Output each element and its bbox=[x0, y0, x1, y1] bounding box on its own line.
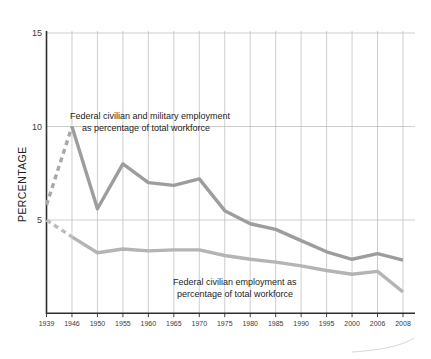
y-tick-label-15: 15 bbox=[32, 28, 42, 38]
x-tick-label-2006: 2006 bbox=[370, 320, 386, 327]
y-axis-title: PERCENTAGE bbox=[16, 146, 28, 222]
y-tick-label-10: 10 bbox=[32, 122, 42, 132]
x-tick-label-1955: 1955 bbox=[115, 320, 131, 327]
line-chart: 15 10 5 PERCENTAGE 193919461950195519601… bbox=[0, 0, 431, 359]
upper-annotation-line-2: as percentage of total workforce bbox=[82, 123, 210, 133]
x-tick-label-2008: 2008 bbox=[395, 320, 411, 327]
x-tick-label-1946: 1946 bbox=[64, 320, 80, 327]
x-tick-label-1990: 1990 bbox=[293, 320, 309, 327]
x-tick-label-1965: 1965 bbox=[166, 320, 182, 327]
x-tick-label-1975: 1975 bbox=[217, 320, 233, 327]
x-tick-label-1950: 1950 bbox=[90, 320, 106, 327]
x-tick-label-1960: 1960 bbox=[141, 320, 157, 327]
chart-figure: 15 10 5 PERCENTAGE 193919461950195519601… bbox=[0, 0, 431, 359]
lower-annotation-line-2: percentage of total workforce bbox=[177, 289, 293, 299]
upper-annotation-line-1: Federal civilian and military employment bbox=[70, 111, 231, 121]
x-tick-label-1995: 1995 bbox=[319, 320, 335, 327]
chart-background bbox=[0, 0, 431, 359]
y-tick-label-5: 5 bbox=[37, 215, 42, 225]
x-tick-label-1939: 1939 bbox=[39, 320, 55, 327]
x-tick-label-1980: 1980 bbox=[242, 320, 258, 327]
lower-annotation-line-1: Federal civilian employment as bbox=[173, 277, 297, 287]
x-axis-tick-labels: 1939194619501955196019651970197519801985… bbox=[39, 320, 411, 327]
x-tick-label-2000: 2000 bbox=[344, 320, 360, 327]
x-tick-label-1970: 1970 bbox=[191, 320, 207, 327]
x-tick-label-1985: 1985 bbox=[268, 320, 284, 327]
